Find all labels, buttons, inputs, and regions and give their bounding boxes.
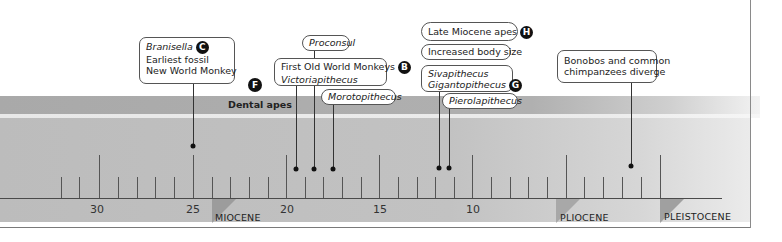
bottom-divider xyxy=(0,227,750,228)
minor-tick xyxy=(305,177,306,198)
event-dot xyxy=(331,167,336,172)
tick-label-25: 25 xyxy=(186,203,200,216)
event-line: First Old World Monkeys xyxy=(281,61,395,72)
event-line: Sivapithecus xyxy=(428,68,506,79)
event-dot xyxy=(629,164,634,169)
event-line: Branisella xyxy=(146,41,193,52)
major-tick xyxy=(566,155,567,198)
event-line: New World Monkey xyxy=(146,65,228,76)
minor-tick xyxy=(454,177,455,198)
minor-tick xyxy=(137,177,138,198)
stem-siva xyxy=(439,90,440,168)
event-branisella: BranisellaC Earliest fossil New World Mo… xyxy=(139,37,235,84)
minor-tick xyxy=(491,177,492,198)
event-pierolapithecus: Pierolapithecus xyxy=(442,93,518,109)
minor-tick xyxy=(361,177,362,198)
badge-c: C xyxy=(196,41,209,54)
tick-label-30: 30 xyxy=(90,203,104,216)
tick-label-10: 10 xyxy=(466,203,480,216)
event-line: Victoriapithecus xyxy=(281,74,380,85)
event-line: Pierolapithecus xyxy=(449,95,522,106)
event-morotopithecus: Morotopithecus xyxy=(321,89,396,105)
event-line: Earliest fossil xyxy=(146,54,228,65)
minor-tick xyxy=(230,177,231,198)
event-bonobos-chimps: Bonobos and common chimpanzees diverge xyxy=(557,50,657,83)
event-line: Bonobos and common xyxy=(564,55,650,66)
badge-h: H xyxy=(520,26,533,39)
frame-border xyxy=(750,0,751,228)
minor-tick xyxy=(398,177,399,198)
timeline-diagram: Dental apes F 30 25 20 15 10 5 MIOCENE P… xyxy=(0,0,782,242)
minor-tick xyxy=(323,177,324,198)
event-line: Proconsul xyxy=(309,37,355,48)
stem-pierola xyxy=(449,106,450,168)
minor-tick xyxy=(79,177,80,198)
minor-tick xyxy=(510,177,511,198)
minor-tick xyxy=(622,177,623,198)
minor-tick xyxy=(118,177,119,198)
event-dot xyxy=(447,166,452,171)
minor-tick xyxy=(174,177,175,198)
minor-tick xyxy=(342,177,343,198)
event-line: Late Miocene apes xyxy=(428,26,517,37)
stem-morotopithecus xyxy=(333,104,334,169)
tick-label-15: 15 xyxy=(373,203,387,216)
minor-tick xyxy=(249,177,250,198)
epoch-pliocene: PLIOCENE xyxy=(560,212,609,223)
major-tick xyxy=(379,155,380,198)
event-old-world-monkeys: First Old World MonkeysB Victoriapithecu… xyxy=(274,58,387,86)
badge-b: B xyxy=(398,61,411,74)
minor-tick xyxy=(268,177,269,198)
major-tick xyxy=(286,155,287,198)
badge-f: F xyxy=(248,78,262,92)
minor-tick xyxy=(61,177,62,198)
minor-tick xyxy=(212,177,213,198)
major-tick xyxy=(472,155,473,198)
badge-g: G xyxy=(509,79,522,92)
minor-tick xyxy=(547,177,548,198)
event-line: Increased body size xyxy=(428,46,522,57)
event-dot xyxy=(437,166,442,171)
event-dot xyxy=(312,167,317,172)
stem-bonobos xyxy=(631,83,632,166)
event-dot xyxy=(294,167,299,172)
minor-tick xyxy=(641,177,642,198)
minor-tick xyxy=(417,177,418,198)
event-line: chimpanzees diverge xyxy=(564,66,650,77)
event-proconsul: Proconsul xyxy=(302,35,350,51)
minor-tick xyxy=(603,177,604,198)
event-late-miocene: Late Miocene apesH xyxy=(421,22,518,41)
event-sivapithecus: Sivapithecus GigantopithecusG xyxy=(421,65,513,92)
tick-label-20: 20 xyxy=(280,203,294,216)
minor-tick xyxy=(435,177,436,198)
epoch-miocene: MIOCENE xyxy=(215,212,261,223)
event-line: Gigantopithecus xyxy=(428,79,506,90)
event-dot xyxy=(191,144,196,149)
epoch-pleistocene: PLEISTOCENE xyxy=(664,211,731,222)
minor-tick xyxy=(584,177,585,198)
stem-old-world xyxy=(296,84,297,169)
major-tick xyxy=(193,155,194,198)
event-increased-body-size: Increased body size xyxy=(421,44,511,60)
major-tick xyxy=(99,155,100,198)
dental-apes-label: Dental apes xyxy=(228,99,292,110)
stem-branisella xyxy=(193,83,194,146)
event-line: Morotopithecus xyxy=(328,91,402,102)
minor-tick xyxy=(155,177,156,198)
major-tick xyxy=(660,155,661,198)
minor-tick xyxy=(528,177,529,198)
time-axis xyxy=(0,198,722,199)
